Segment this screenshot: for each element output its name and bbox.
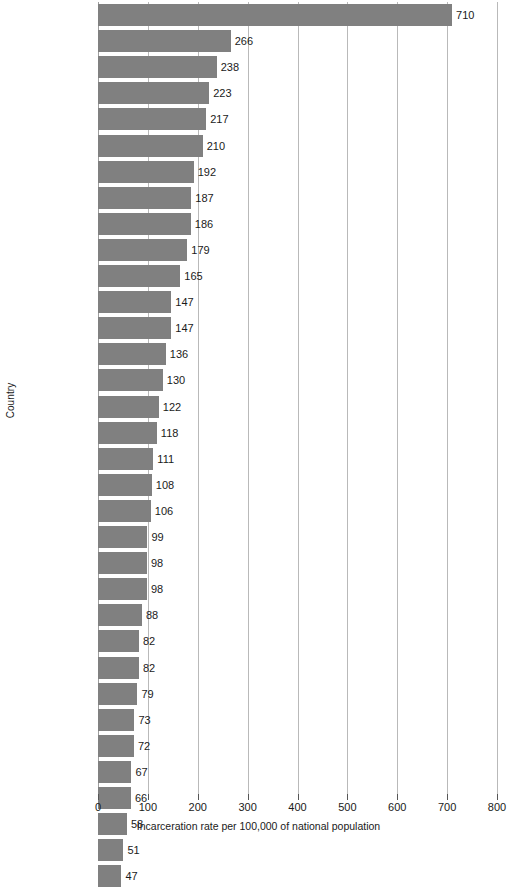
- bar-value-label: 111: [153, 448, 174, 470]
- y-axis-title-label: Country: [6, 382, 17, 418]
- bar-row: 217: [98, 106, 497, 132]
- bar[interactable]: [98, 683, 137, 705]
- bar-value-label: 266: [231, 30, 253, 52]
- bar-value-label: 186: [191, 213, 213, 235]
- bar-value-label: 147: [171, 291, 193, 313]
- bar[interactable]: [98, 865, 121, 887]
- bar-value-label: 108: [152, 474, 174, 496]
- bar[interactable]: [98, 735, 134, 757]
- bar-row: 67: [98, 759, 497, 785]
- bar[interactable]: [98, 448, 153, 470]
- bar-row: 136: [98, 341, 497, 367]
- bar-row: 72: [98, 733, 497, 759]
- gridline-800: [497, 2, 498, 794]
- y-axis-title: Country: [0, 0, 22, 800]
- bar[interactable]: [98, 761, 131, 783]
- bar-value-label: 136: [166, 343, 188, 365]
- bar[interactable]: [98, 474, 152, 496]
- bar[interactable]: [98, 839, 123, 861]
- bar[interactable]: [98, 396, 159, 418]
- bar-value-label: 179: [187, 239, 209, 261]
- bar-row: 47: [98, 863, 497, 889]
- bar[interactable]: [98, 108, 206, 130]
- bar[interactable]: [98, 500, 151, 522]
- bar-row: 111: [98, 446, 497, 472]
- bar-value-label: 187: [191, 187, 213, 209]
- bar-row: 223: [98, 80, 497, 106]
- bar[interactable]: [98, 343, 166, 365]
- bar-value-label: 165: [180, 265, 202, 287]
- bar-row: 79: [98, 681, 497, 707]
- bar-value-label: 88: [142, 604, 158, 626]
- bar-value-label: 118: [157, 422, 179, 444]
- bar-value-label: 122: [159, 396, 181, 418]
- bar[interactable]: [98, 552, 147, 574]
- bar-row: 710: [98, 2, 497, 28]
- bar-row: 147: [98, 315, 497, 341]
- x-tick-700: [447, 794, 448, 800]
- x-tick-400: [298, 794, 299, 800]
- bar-value-label: 710: [452, 4, 474, 26]
- bar-row: 179: [98, 237, 497, 263]
- bar[interactable]: [98, 317, 171, 339]
- bar[interactable]: [98, 709, 134, 731]
- bar-row: 99: [98, 524, 497, 550]
- bar-row: 130: [98, 367, 497, 393]
- x-tick-600: [397, 794, 398, 800]
- bar-value-label: 67: [131, 761, 147, 783]
- bar-row: 266: [98, 28, 497, 54]
- bar[interactable]: [98, 4, 452, 26]
- bar[interactable]: [98, 657, 139, 679]
- bar-value-label: 99: [147, 526, 163, 548]
- bar-row: 186: [98, 211, 497, 237]
- x-tick-200: [198, 794, 199, 800]
- bar-row: 147: [98, 289, 497, 315]
- bar[interactable]: [98, 578, 147, 600]
- bar[interactable]: [98, 265, 180, 287]
- bar[interactable]: [98, 82, 209, 104]
- bar[interactable]: [98, 526, 147, 548]
- bar[interactable]: [98, 291, 171, 313]
- bar-row: 165: [98, 263, 497, 289]
- x-tick-label-800: 800: [467, 801, 517, 813]
- bar[interactable]: [98, 135, 203, 157]
- bar-row: 88: [98, 602, 497, 628]
- bar[interactable]: [98, 239, 187, 261]
- bar-row: 118: [98, 420, 497, 446]
- bar-row: 238: [98, 54, 497, 80]
- bar-value-label: 82: [139, 657, 155, 679]
- x-tick-500: [347, 794, 348, 800]
- bar-value-label: 238: [217, 56, 239, 78]
- bar-value-label: 73: [134, 709, 150, 731]
- bar-value-label: 223: [209, 82, 231, 104]
- bar-value-label: 106: [151, 500, 173, 522]
- bar[interactable]: [98, 30, 231, 52]
- x-tick-300: [248, 794, 249, 800]
- bar[interactable]: [98, 56, 217, 78]
- bar-value-label: 147: [171, 317, 193, 339]
- bar[interactable]: [98, 213, 191, 235]
- x-tick-800: [497, 794, 498, 800]
- bar-value-label: 217: [206, 108, 228, 130]
- plot-area: 7102662382232172101921871861791651471471…: [98, 2, 497, 794]
- bar-row: 210: [98, 133, 497, 159]
- bar-value-label: 51: [123, 839, 139, 861]
- bar[interactable]: [98, 422, 157, 444]
- bar-row: 192: [98, 159, 497, 185]
- bar[interactable]: [98, 187, 191, 209]
- bar[interactable]: [98, 630, 139, 652]
- bar-value-label: 98: [147, 578, 163, 600]
- bar-row: 82: [98, 628, 497, 654]
- bar-value-label: 210: [203, 135, 225, 157]
- bar[interactable]: [98, 161, 194, 183]
- x-axis-title: Incarceration rate per 100,000 of nation…: [0, 820, 517, 832]
- bar-row: 106: [98, 498, 497, 524]
- bar[interactable]: [98, 604, 142, 626]
- bar[interactable]: [98, 369, 163, 391]
- bar-row: 108: [98, 472, 497, 498]
- bar-value-label: 72: [134, 735, 150, 757]
- bar-value-label: 192: [194, 161, 216, 183]
- bar-value-label: 130: [163, 369, 185, 391]
- bar-row: 98: [98, 576, 497, 602]
